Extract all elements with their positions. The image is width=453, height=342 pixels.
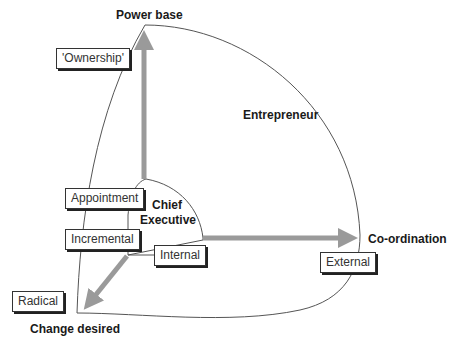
axis-label-co-ordination: Co-ordination	[368, 232, 447, 246]
axis-label-power-base: Power base	[116, 8, 183, 22]
box-internal: Internal	[154, 245, 206, 266]
region-label-chief: Chief	[152, 198, 182, 212]
axis-label-change-desired: Change desired	[30, 322, 120, 336]
box-radical: Radical	[12, 291, 64, 312]
box-external: External	[320, 252, 376, 273]
box-ownership: 'Ownership'	[56, 48, 130, 69]
change-desired-arrow	[90, 256, 127, 302]
region-label-executive: Executive	[140, 213, 196, 227]
box-appointment: Appointment	[65, 188, 144, 209]
region-label-entrepreneur: Entrepreneur	[243, 108, 318, 122]
box-incremental: Incremental	[65, 229, 140, 250]
